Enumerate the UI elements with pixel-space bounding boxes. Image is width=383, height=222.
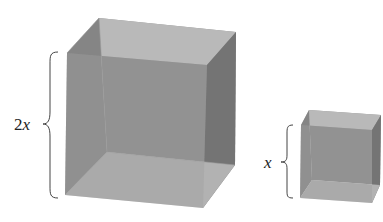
large-cube-front-face [65,53,207,208]
cube-comparison-diagram: 2x x [0,0,383,222]
small-cube-front-face [300,125,372,203]
large-cube [65,18,236,208]
small-cube-brace [281,125,293,198]
small-cube-label: x [263,153,272,172]
large-cube-brace [43,52,58,198]
small-cube [300,110,381,203]
large-cube-label: 2x [14,115,31,134]
